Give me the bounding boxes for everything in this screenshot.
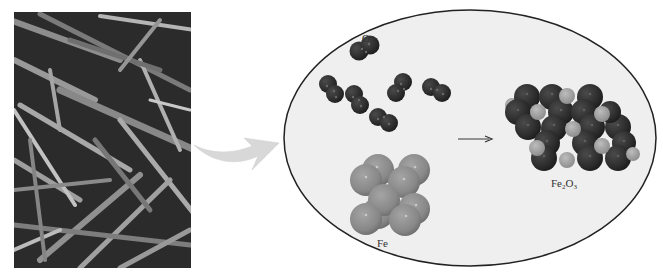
molecular-view-ellipse	[284, 10, 656, 266]
iron-atom-cluster	[350, 154, 430, 236]
o2-label-symbol: O	[362, 32, 370, 44]
diagram-canvas	[0, 0, 663, 278]
fe2o3-label-fe: Fe	[551, 177, 562, 189]
curved-arrow-icon	[194, 138, 279, 170]
fe2o3-label: Fe2O3	[551, 178, 577, 191]
fe2o3-label-sub2: 3	[573, 183, 577, 191]
fe-label: Fe	[377, 238, 388, 249]
o2-label: O2	[362, 33, 373, 46]
rusting-diagram: O2 Fe Fe2O3	[0, 0, 663, 278]
rusty-nails-photo	[10, 12, 195, 268]
o2-label-subscript: 2	[370, 38, 374, 46]
fe-label-symbol: Fe	[377, 237, 388, 249]
